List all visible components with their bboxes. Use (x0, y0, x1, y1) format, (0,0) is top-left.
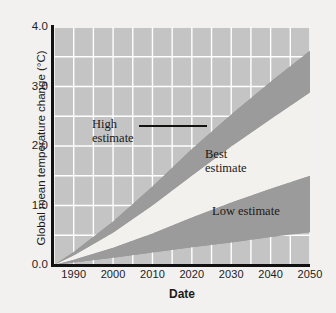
x-tick-label: 2050 (288, 268, 332, 280)
x-axis-line (51, 264, 310, 267)
annotation-low-estimate: Low estimate (212, 205, 280, 219)
annotation-high-estimate: High estimate (92, 118, 134, 145)
x-tick-label: 2040 (249, 268, 293, 280)
gridlines (54, 27, 310, 265)
x-tick-label: 2010 (130, 268, 174, 280)
plot-area (54, 27, 310, 265)
x-axis-title: Date (54, 287, 310, 301)
figure-card: 0.01.02.03.04.0 199020002010202020302040… (0, 0, 336, 313)
x-tick-label: 2020 (170, 268, 214, 280)
y-axis-title: Global mean temperature change (°C) (35, 33, 47, 263)
x-tick-label: 1990 (52, 268, 96, 280)
climate-projection-figure: 0.01.02.03.04.0 199020002010202020302040… (0, 0, 336, 313)
annotation-best-estimate: Best estimate (205, 148, 247, 175)
y-tick-label: 4.0 (8, 20, 48, 32)
y-axis-line (51, 25, 54, 267)
x-tick-label: 2000 (91, 268, 135, 280)
annotation-high-leader-line (139, 125, 207, 127)
x-tick-label: 2030 (209, 268, 253, 280)
area-chart-svg (54, 27, 310, 265)
